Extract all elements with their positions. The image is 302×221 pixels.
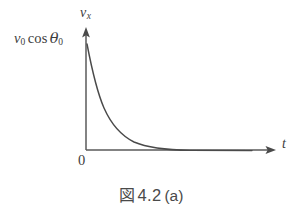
figure-caption: 図4.2(a) <box>0 186 302 204</box>
decay-curve <box>87 44 252 151</box>
intercept-symbol-subscript: 0 <box>20 37 25 47</box>
origin-label: 0 <box>78 153 85 168</box>
intercept-angle-subscript: 0 <box>58 37 63 47</box>
y-axis-label-symbol: v <box>80 5 86 20</box>
intercept-function: cos <box>28 30 48 46</box>
figure-container: vx t v0cosθ0 0 図4.2(a) <box>0 0 302 221</box>
y-axis-label-subscript: x <box>87 11 91 21</box>
caption-suffix: (a) <box>164 187 183 204</box>
caption-figure-glyph: 図 <box>119 186 135 205</box>
y-axis-label: vx <box>80 6 91 22</box>
caption-number: 4.2 <box>138 186 162 204</box>
y-intercept-label: v0cosθ0 <box>14 31 63 48</box>
x-axis-label: t <box>282 137 286 151</box>
